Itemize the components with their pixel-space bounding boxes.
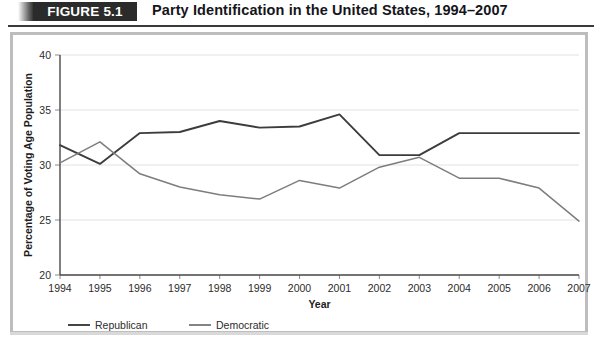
figure-badge-gradient: [18, 2, 34, 21]
series-line-democratic: [60, 142, 579, 221]
x-tick-label: 1998: [208, 282, 232, 294]
x-tick-label: 2002: [368, 282, 392, 294]
chart-legend: RepublicanDemocratic: [68, 319, 269, 331]
x-tick-label: 2005: [487, 282, 511, 294]
x-tick-label: 1994: [48, 282, 72, 294]
figure-title: Party Identification in the United State…: [152, 2, 508, 18]
x-axis-tick-labels: 1994199519961997199819992000200120022003…: [48, 282, 591, 294]
x-tick-label: 2003: [408, 282, 432, 294]
frame-shadow: [10, 332, 588, 335]
figure-number-badge: FIGURE 5.1: [33, 2, 137, 21]
y-tick-label: 20: [39, 269, 51, 281]
series-line-republican: [60, 114, 579, 163]
legend-item-republican[interactable]: Republican: [68, 319, 148, 331]
legend-label: Democratic: [216, 319, 269, 331]
gridlines-group: [60, 55, 579, 275]
x-tick-label: 1995: [88, 282, 112, 294]
x-tick-label: 2000: [288, 282, 312, 294]
x-tick-label: 2004: [448, 282, 472, 294]
y-tick-label: 40: [39, 49, 51, 61]
y-tick-label: 30: [39, 159, 51, 171]
y-tick-label: 25: [39, 214, 51, 226]
chart-plot-area: 2025303540 19941995199619971998199920002…: [13, 35, 591, 337]
x-tick-label: 1996: [128, 282, 152, 294]
header-divider: [8, 25, 594, 27]
tick-marks-group: [55, 55, 579, 279]
x-tick-label: 1999: [248, 282, 272, 294]
x-tick-label: 2001: [328, 282, 352, 294]
y-axis-title: Percentage of Voting Age Population: [22, 73, 34, 257]
x-tick-label: 1997: [168, 282, 192, 294]
y-tick-label: 35: [39, 104, 51, 116]
figure-header: FIGURE 5.1 Party Identification in the U…: [0, 0, 601, 28]
y-axis-tick-labels: 2025303540: [39, 49, 51, 281]
line-chart-svg: 2025303540 19941995199619971998199920002…: [13, 35, 591, 337]
x-axis-title: Year: [308, 298, 330, 310]
chart-frame: 2025303540 19941995199619971998199920002…: [10, 32, 588, 334]
data-series-group: [60, 114, 579, 221]
x-tick-label: 2006: [527, 282, 551, 294]
x-tick-label: 2007: [567, 282, 591, 294]
legend-label: Republican: [95, 319, 148, 331]
legend-item-democratic[interactable]: Democratic: [189, 319, 269, 331]
